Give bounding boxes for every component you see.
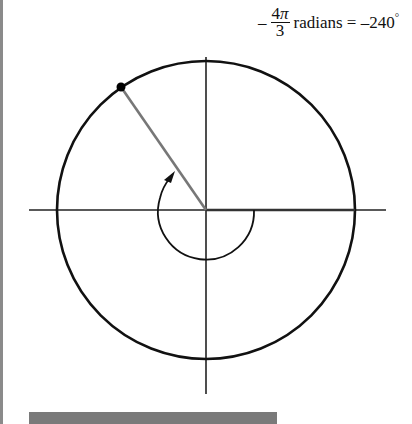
angle-label: – 4π 3 radians = –240° [258,6,399,39]
degree-symbol: ° [395,11,399,23]
arrowhead-icon [164,171,175,183]
label-text: radians = –240 [294,13,395,33]
fraction-denominator: 3 [276,23,285,39]
terminal-point [117,83,126,92]
fraction: 4π 3 [271,6,290,39]
terminal-ray [121,87,206,210]
unit-circle-diagram [0,0,412,424]
bottom-bar [29,412,277,424]
label-sign: – [258,13,267,33]
